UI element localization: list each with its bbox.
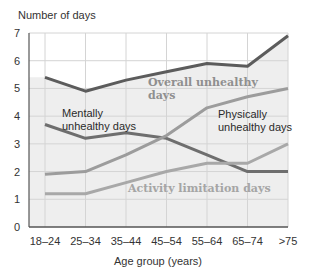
annotation-activity-limitation-days: Activity limitation days (127, 182, 271, 195)
x-tick-label: >75 (279, 235, 298, 247)
y-tick-label: 7 (14, 27, 20, 39)
y-tick-label: 4 (14, 110, 20, 122)
y-tick-label: 6 (14, 55, 20, 67)
x-axis-title: Age group (years) (114, 255, 202, 267)
x-tick-label: 65–74 (232, 235, 263, 247)
y-tick-label: 5 (14, 82, 20, 94)
line-chart: 0123456718–2425–3435–4445–5455–6465–74>7… (0, 0, 312, 269)
y-tick-label: 0 (14, 221, 20, 233)
x-tick-label: 45–54 (151, 235, 182, 247)
x-tick-label: 55–64 (192, 235, 223, 247)
x-tick-label: 35–44 (111, 235, 142, 247)
x-tick-label: 25–34 (70, 235, 101, 247)
y-tick-label: 1 (14, 193, 20, 205)
x-tick-label: 18–24 (30, 235, 61, 247)
y-tick-label: 2 (14, 166, 20, 178)
y-tick-label: 3 (14, 138, 20, 150)
y-axis-title: Number of days (18, 9, 96, 21)
